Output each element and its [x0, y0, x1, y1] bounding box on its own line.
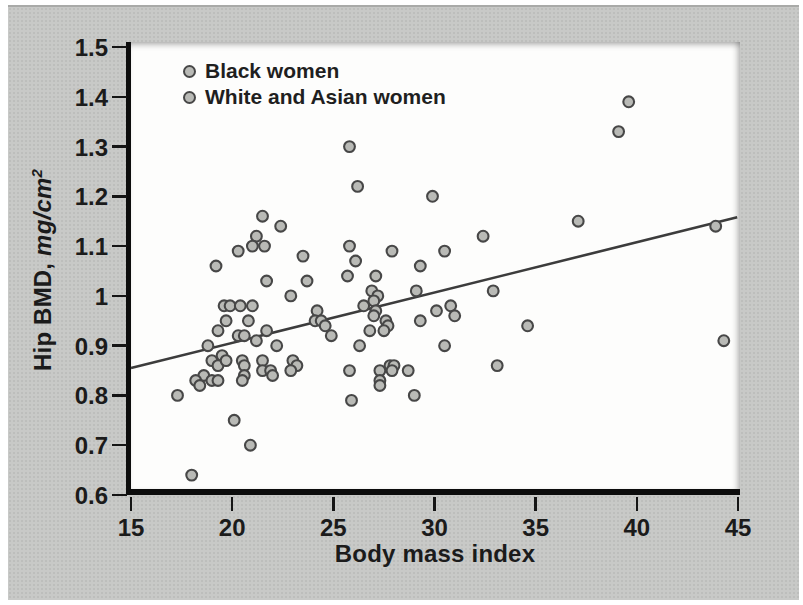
- data-point: [320, 320, 331, 331]
- legend-item-black-women: Black women: [183, 58, 446, 84]
- data-point: [352, 181, 363, 192]
- data-point: [431, 305, 442, 316]
- data-point: [478, 231, 489, 242]
- data-point: [211, 261, 222, 272]
- data-point: [271, 340, 282, 351]
- data-point: [415, 261, 426, 272]
- data-point: [221, 355, 232, 366]
- data-point: [409, 390, 420, 401]
- data-point: [368, 310, 379, 321]
- data-point: [342, 271, 353, 282]
- data-point: [427, 191, 438, 202]
- data-point: [285, 365, 296, 376]
- y-axis-title-text: Hip BMD,: [29, 256, 56, 371]
- data-point: [247, 241, 258, 252]
- x-axis-title: Body mass index: [335, 540, 535, 568]
- data-point: [267, 370, 278, 381]
- data-point: [344, 241, 355, 252]
- data-point: [623, 96, 634, 107]
- data-point: [439, 340, 450, 351]
- data-point: [573, 216, 584, 227]
- data-point: [285, 291, 296, 302]
- data-point: [275, 221, 286, 232]
- data-point: [257, 211, 268, 222]
- data-point: [415, 315, 426, 326]
- data-point: [492, 360, 503, 371]
- data-point: [387, 246, 398, 257]
- legend-item-white-asian-women: White and Asian women: [183, 84, 446, 110]
- data-point: [186, 470, 197, 481]
- white-asian-women-marker-icon: [183, 91, 196, 104]
- data-point: [354, 340, 365, 351]
- data-point: [344, 365, 355, 376]
- data-point: [237, 375, 248, 386]
- data-point: [379, 325, 390, 336]
- data-point: [346, 395, 357, 406]
- data-point: [350, 256, 361, 267]
- data-point: [229, 415, 240, 426]
- data-point: [449, 310, 460, 321]
- data-point: [233, 246, 244, 257]
- data-point: [247, 300, 258, 311]
- data-point: [358, 300, 369, 311]
- data-point: [213, 375, 224, 386]
- data-point: [375, 380, 386, 391]
- data-point: [259, 241, 270, 252]
- figure: 1.51.41.31.21.110.90.80.70.6152025303540…: [0, 0, 803, 605]
- data-point: [213, 325, 224, 336]
- data-point: [172, 390, 183, 401]
- data-point: [251, 335, 262, 346]
- trend-line: [131, 217, 737, 368]
- legend: Black women White and Asian women: [183, 58, 446, 110]
- data-point: [403, 365, 414, 376]
- data-point: [235, 300, 246, 311]
- data-point: [326, 330, 337, 341]
- data-point: [221, 315, 232, 326]
- data-point: [261, 276, 272, 287]
- data-point: [261, 325, 272, 336]
- data-point: [194, 380, 205, 391]
- data-point: [245, 440, 256, 451]
- legend-label: White and Asian women: [205, 85, 446, 109]
- black-women-marker-icon: [183, 65, 196, 78]
- data-point: [344, 141, 355, 152]
- y-axis-title: Hip BMD, mg/cm2: [28, 169, 57, 371]
- data-point: [488, 286, 499, 297]
- data-point: [302, 276, 313, 287]
- data-point: [243, 315, 254, 326]
- data-point: [239, 330, 250, 341]
- data-point: [522, 320, 533, 331]
- data-point: [718, 335, 729, 346]
- data-point: [370, 271, 381, 282]
- data-point: [710, 221, 721, 232]
- legend-label: Black women: [205, 59, 339, 83]
- data-point: [298, 251, 309, 262]
- data-point: [411, 286, 422, 297]
- data-point: [203, 340, 214, 351]
- data-point: [387, 365, 398, 376]
- data-point: [364, 325, 375, 336]
- y-axis-unit: mg/cm: [29, 178, 56, 256]
- data-point: [613, 126, 624, 137]
- y-axis-unit-exponent: 2: [28, 169, 45, 178]
- data-point: [439, 246, 450, 257]
